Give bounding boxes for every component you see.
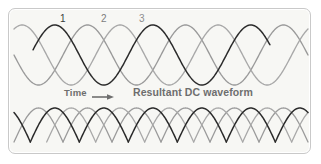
curve-label-3: 3 [139, 14, 145, 24]
curve-label-1: 1 [60, 14, 66, 24]
waveform-plot [0, 0, 321, 164]
curve-label-2: 2 [101, 14, 107, 24]
time-axis-label: Time [64, 88, 87, 98]
resultant-dc-panel [14, 108, 308, 142]
waveform-curve [33, 25, 270, 85]
figure-root: 1 2 3 Time Resultant DC waveform [0, 0, 321, 164]
right-arrow-icon [92, 93, 114, 101]
waveform-curve [275, 108, 308, 142]
resultant-dc-waveform-label: Resultant DC waveform [133, 87, 253, 98]
three-phase-ac-panel [14, 25, 308, 85]
